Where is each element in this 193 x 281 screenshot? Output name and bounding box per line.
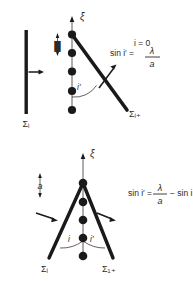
left-plate-label: Σᵢ bbox=[23, 119, 30, 129]
angle-label-iprime-top: i′ bbox=[77, 82, 81, 92]
xi-axis-label-bottom: ξ bbox=[90, 148, 95, 160]
spacing-label-top: a bbox=[55, 41, 60, 51]
plate-propagation-arrow-head bbox=[39, 70, 45, 75]
scattering-dot bbox=[79, 179, 88, 188]
diffracted-arrow-head-bottom bbox=[109, 217, 116, 222]
xi-axis-label-top: ξ bbox=[80, 11, 85, 23]
scattering-dot bbox=[68, 106, 76, 114]
incident-arrow-shaft-bottom bbox=[36, 213, 54, 219]
physics-figure: Σᵢ ξ █ a bbox=[0, 0, 193, 281]
diffraction-arrow-head-top bbox=[110, 65, 116, 70]
spacing-dim-arrow-down-top bbox=[56, 51, 60, 56]
scattering-dot bbox=[68, 30, 76, 38]
top-panel: Σᵢ ξ █ a bbox=[23, 11, 160, 129]
bottom-panel: ξ a i i′ bbox=[36, 148, 193, 274]
xi-axis-arrowhead-bottom bbox=[81, 153, 86, 159]
equation-bottom-denominator: a bbox=[157, 196, 162, 206]
spacing-label-bottom: a bbox=[37, 181, 42, 191]
scattering-dot bbox=[68, 49, 76, 57]
incident-wavefront-plate bbox=[25, 30, 28, 114]
angle-label-i-bottom: i bbox=[68, 234, 71, 244]
xi-axis-arrowhead-top bbox=[70, 16, 75, 22]
incident-arrow-head-bottom bbox=[51, 218, 58, 223]
spacing-dimension-top: █ a bbox=[54, 33, 61, 56]
diffracted-wavefront-line-top bbox=[72, 35, 127, 111]
figure-root: Σᵢ ξ █ a bbox=[0, 0, 193, 281]
diffracted-surface-label-bottom: Σ₁₊ bbox=[102, 264, 116, 274]
angle-label-iprime-bottom: i′ bbox=[90, 234, 94, 244]
equation-bottom-numerator: λ bbox=[157, 183, 162, 193]
equation-top-numerator: λ bbox=[149, 46, 154, 56]
spacing-dim-arrow-up-bottom bbox=[38, 173, 42, 178]
scattering-dot bbox=[79, 252, 88, 261]
equation-bottom-rhs: − sin i bbox=[170, 188, 193, 198]
incident-surface-label-bottom: Σᵢ bbox=[41, 264, 48, 274]
scattering-dot bbox=[79, 216, 88, 225]
diffracted-surface-label-top: Σᵢ₊ bbox=[129, 109, 141, 119]
scattering-dot bbox=[68, 67, 76, 75]
diffracted-wavefront-line-bottom bbox=[83, 183, 113, 258]
equation-bottom-lhs: sin i′ = bbox=[128, 188, 152, 198]
angle-arc-i-bottom bbox=[60, 241, 83, 248]
spacing-dim-arrow-up-top bbox=[56, 33, 60, 38]
spacing-dim-arrow-down-bottom bbox=[38, 193, 42, 198]
scattering-dot bbox=[79, 234, 88, 243]
spacing-dimension-bottom: a bbox=[37, 173, 42, 198]
scattering-dot bbox=[68, 87, 76, 95]
equation-top: i = 0 sin i′ = λ a bbox=[110, 38, 160, 69]
scattering-dot bbox=[79, 198, 88, 207]
angle-arc-iprime-bottom bbox=[83, 241, 105, 248]
equation-bottom: sin i′ = λ a − sin i bbox=[128, 183, 193, 206]
equation-top-line2: sin i′ = bbox=[110, 48, 134, 58]
equation-top-line1: i = 0 bbox=[134, 38, 151, 48]
equation-top-denominator: a bbox=[149, 59, 154, 69]
diffracted-arrow-shaft-bottom bbox=[97, 213, 112, 219]
incident-propagation-arrow-bottom bbox=[36, 213, 58, 222]
left-plate-group: Σᵢ bbox=[23, 30, 44, 129]
diffraction-arrow-shaft-top bbox=[99, 69, 114, 89]
